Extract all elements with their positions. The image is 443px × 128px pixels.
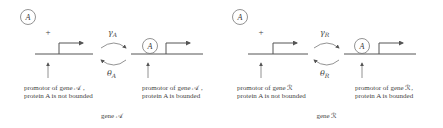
backward-reaction-arrow: [314, 60, 339, 65]
rate-gamma-a: γA: [108, 28, 118, 38]
caption-unbound-line2: protein A is not bounded: [24, 92, 93, 100]
free-protein-a: A: [21, 10, 36, 25]
caption-unbound-line1: promotor of gene 𝒜 ,: [24, 84, 85, 92]
plus-sign: +: [258, 27, 263, 37]
caption-unbound-line1: promotor of gene ℛ: [237, 84, 293, 92]
caption-unbound-line2: protein A is not bounded: [237, 92, 306, 100]
panel-gene-a: A + γA θA A promotor of gene 𝒜 , protein…: [21, 10, 204, 121]
backward-reaction-arrow: [101, 60, 126, 65]
gene-regulation-diagram: A + γA θA A promotor of gene 𝒜 , protein…: [0, 0, 443, 128]
transcription-arrow-icon: [273, 43, 297, 54]
rate-gamma-r: γR: [320, 28, 330, 38]
free-protein-label: A: [25, 13, 31, 22]
transcription-arrow-icon: [59, 43, 83, 54]
plus-sign: +: [45, 27, 50, 37]
caption-bound-line2: protein A is bounded: [142, 92, 201, 100]
bound-protein-a: A: [143, 39, 158, 54]
transcription-arrow-icon: [379, 43, 403, 54]
bound-protein-label: A: [147, 42, 153, 51]
free-protein-label: A: [237, 13, 243, 22]
rate-theta-r: θR: [320, 69, 330, 79]
free-protein-a: A: [233, 10, 248, 25]
rate-theta-a: θA: [107, 69, 117, 79]
caption-bound-line1: promotor of gene 𝒜 ,: [142, 84, 203, 92]
caption-bound-line1: promotor of gene ℛ,: [355, 84, 413, 92]
forward-reaction-arrow: [101, 43, 126, 48]
transcription-arrow-icon: [166, 43, 190, 54]
gene-label: gene 𝒜: [101, 112, 124, 120]
forward-reaction-arrow: [314, 43, 339, 48]
caption-bound-line2: protein A is bounded: [355, 92, 414, 100]
bound-protein-label: A: [359, 42, 365, 51]
gene-label: gene ℛ: [317, 112, 338, 120]
bound-protein-a: A: [355, 39, 370, 54]
panel-gene-r: A + γR θR A promotor of gene ℛ protein A…: [233, 10, 417, 121]
